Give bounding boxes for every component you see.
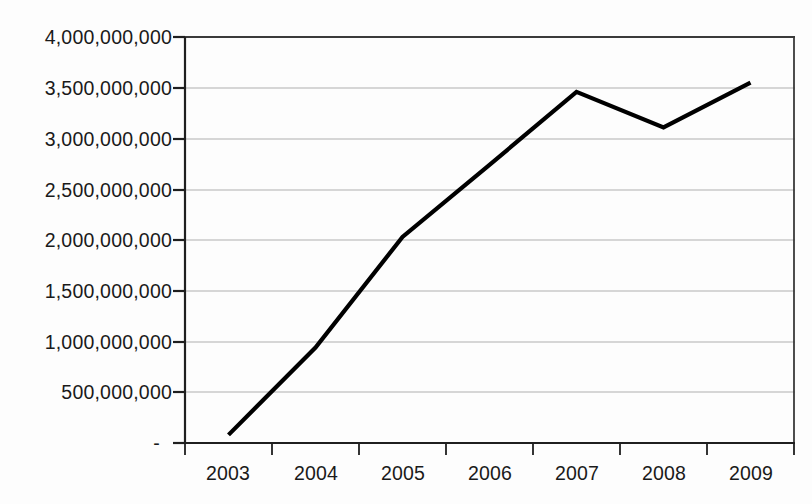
x-tick-label-2006: 2006 [440,462,540,485]
x-axis-tick-labels: 2003 2004 2005 2006 2007 2008 2009 [0,0,812,504]
x-tick-label-2009: 2009 [701,462,801,485]
x-tick-label-2008: 2008 [614,462,714,485]
x-tick-label-2004: 2004 [266,462,366,485]
footer-faint-text [250,492,580,504]
x-tick-label-2005: 2005 [353,462,453,485]
line-chart: 4,000,000,000 3,500,000,000 3,000,000,00… [0,0,812,504]
x-tick-label-2003: 2003 [178,462,278,485]
x-tick-label-2007: 2007 [527,462,627,485]
